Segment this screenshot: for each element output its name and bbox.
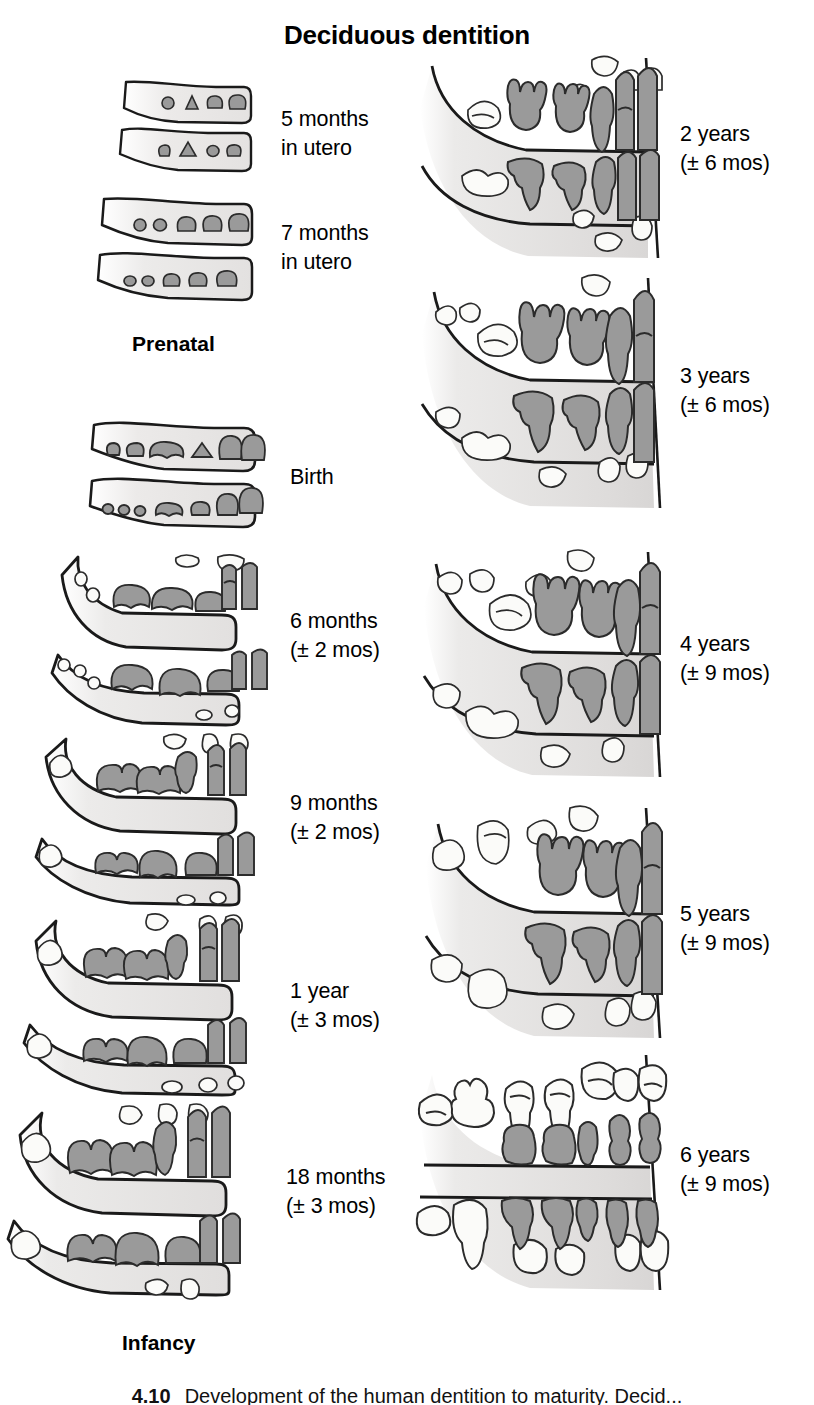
- column-early-childhood: 2 years (± 6 mos): [418, 0, 814, 1405]
- stage-4-years: 4 years (± 9 mos): [418, 552, 814, 777]
- stage-label-4-years: 4 years (± 9 mos): [680, 630, 770, 687]
- jaw-illustration-2-years: [418, 58, 668, 258]
- figure-caption-number: 4.10: [132, 1385, 171, 1405]
- group-caption-infancy: Infancy: [122, 1330, 196, 1356]
- stage-7-months-in-utero: 7 months in utero: [98, 193, 418, 303]
- jaw-illustration-9-months: [36, 735, 271, 905]
- stage-5-years: 5 years (± 9 mos): [418, 808, 814, 1038]
- stage-18-months: 18 months (± 3 mos): [4, 1105, 424, 1295]
- figure-caption-text: Development of the human dentition to ma…: [185, 1385, 683, 1405]
- stage-label-9-months: 9 months (± 2 mos): [290, 789, 380, 846]
- stage-label-1-year: 1 year (± 3 mos): [290, 977, 380, 1034]
- stage-label-6-months: 6 months (± 2 mos): [290, 607, 380, 664]
- stage-label-18-months: 18 months (± 3 mos): [286, 1163, 386, 1220]
- jaw-illustration-5-months-in-utero: [118, 78, 278, 173]
- column-prenatal-infancy: 5 months in utero: [0, 0, 430, 1405]
- jaw-illustration-1-year: [22, 915, 270, 1095]
- stage-1-year: 1 year (± 3 mos): [22, 915, 422, 1095]
- jaw-illustration-3-years: [418, 278, 668, 508]
- stage-label-5-years: 5 years (± 9 mos): [680, 900, 770, 957]
- jaw-illustration-6-months: [56, 555, 271, 725]
- stage-label-7-months-in-utero: 7 months in utero: [281, 219, 369, 276]
- stage-5-months-in-utero: 5 months in utero: [118, 78, 418, 173]
- jaw-illustration-5-years: [418, 808, 668, 1038]
- stage-6-months: 6 months (± 2 mos): [56, 555, 426, 725]
- stage-3-years: 3 years (± 6 mos): [418, 278, 814, 508]
- stage-label-birth: Birth: [290, 463, 334, 492]
- jaw-illustration-18-months: [4, 1105, 266, 1295]
- jaw-illustration-birth: [92, 415, 282, 530]
- jaw-illustration-7-months-in-utero: [98, 193, 278, 303]
- stage-label-2-years: 2 years (± 6 mos): [680, 120, 770, 177]
- group-caption-prenatal: Prenatal: [132, 331, 215, 357]
- stage-9-months: 9 months (± 2 mos): [36, 735, 426, 905]
- stage-2-years: 2 years (± 6 mos): [418, 58, 814, 258]
- stage-label-3-years: 3 years (± 6 mos): [680, 362, 770, 419]
- stage-birth: Birth: [92, 415, 422, 530]
- figure-caption: 4.10Development of the human dentition t…: [0, 1385, 814, 1405]
- stage-label-5-months-in-utero: 5 months in utero: [281, 105, 369, 162]
- jaw-illustration-6-years: [418, 1055, 668, 1290]
- stage-label-6-years: 6 years (± 9 mos): [680, 1141, 770, 1198]
- jaw-illustration-4-years: [418, 552, 668, 777]
- stage-6-years: 6 years (± 9 mos): [418, 1055, 814, 1290]
